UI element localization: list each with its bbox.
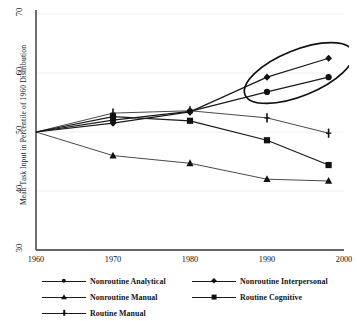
legend-item-nonroutine-manual[interactable]: Nonroutine Manual [42, 290, 158, 304]
chart-svg [0, 0, 349, 270]
series-line [36, 132, 329, 181]
data-point-marker [264, 113, 269, 122]
x-tick-label: 1970 [96, 255, 130, 264]
data-point-marker [187, 118, 193, 124]
y-tick-label: 60 [14, 62, 24, 80]
legend-marker-diamond-icon [192, 276, 236, 286]
x-tick-label: 2000 [327, 255, 357, 264]
chart-legend: Nonroutine AnalyticalNonroutine Interper… [0, 272, 349, 321]
legend-label: Nonroutine Interpersonal [240, 277, 328, 286]
data-point-marker [326, 129, 331, 138]
data-point-marker [326, 74, 332, 80]
data-point-marker [326, 162, 332, 168]
legend-label: Nonroutine Analytical [90, 277, 166, 286]
legend-item-nonroutine-interpersonal[interactable]: Nonroutine Interpersonal [192, 274, 328, 288]
legend-marker-glyph [62, 279, 66, 283]
legend-marker-glyph [63, 310, 65, 316]
legend-item-routine-cognitive[interactable]: Routine Cognitive [192, 290, 302, 304]
legend-marker-triangle-icon [42, 292, 86, 302]
legend-item-routine-manual[interactable]: Routine Manual [42, 306, 146, 320]
x-tick-label: 1980 [173, 255, 207, 264]
data-point-marker [187, 106, 192, 115]
legend-label: Routine Cognitive [240, 293, 302, 302]
series-routine-cognitive [36, 114, 332, 169]
legend-marker-square-icon [192, 292, 236, 302]
x-tick-label: 1960 [19, 255, 53, 264]
series-line [36, 117, 329, 165]
data-point-marker [264, 137, 270, 143]
legend-marker-glyph [61, 294, 67, 299]
plot-area: Mean Task Input in Percentile of 1960 Di… [0, 0, 349, 270]
data-point-marker [264, 89, 270, 95]
legend-item-nonroutine-analytical[interactable]: Nonroutine Analytical [42, 274, 166, 288]
legend-marker-plus-icon [42, 308, 86, 318]
data-point-marker [325, 55, 332, 62]
legend-label: Nonroutine Manual [90, 293, 158, 302]
series-routine-manual [36, 106, 331, 138]
y-tick-label: 40 [14, 180, 24, 198]
legend-marker-glyph [212, 295, 217, 300]
y-tick-label: 50 [14, 121, 24, 139]
data-point-marker [264, 74, 271, 81]
legend-marker-circle-icon [42, 276, 86, 286]
legend-label: Routine Manual [90, 309, 146, 318]
series-line [36, 111, 329, 133]
x-tick-label: 1990 [250, 255, 284, 264]
legend-marker-glyph [211, 278, 217, 284]
data-point-marker [325, 177, 332, 184]
series-nonroutine-manual [36, 132, 332, 184]
y-tick-label: 70 [14, 3, 24, 21]
